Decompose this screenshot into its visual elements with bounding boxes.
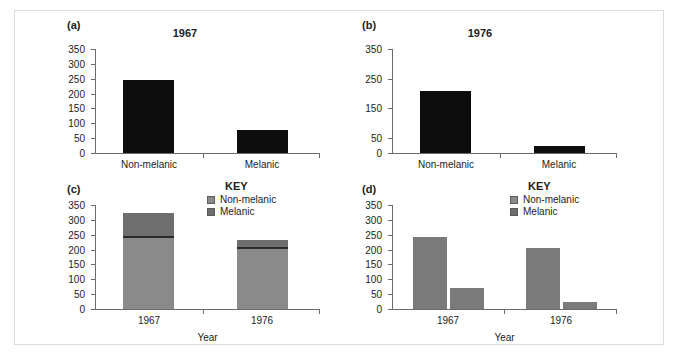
panel-c-ylabel: 250 [55,231,85,241]
panel-c-y-axis [95,205,96,309]
panel-b-ylabel: 0 [352,149,382,159]
panel-a-ylabel: 250 [55,75,85,85]
legend-label-non-melanic: Non-melanic [220,195,276,205]
panel-b-xlabel-non-melanic: Non-melanic [392,160,500,170]
panel-b-plot: 0 50 150 250 350 Non-melanic Melanic [392,49,617,153]
panel-c-ylabel: 300 [55,216,85,226]
panel-d-ylabel: 100 [352,275,382,285]
panel-b-bar-non-melanic [420,91,471,153]
panel-b-ytick [388,138,392,139]
legend-swatch-non-melanic-icon [510,196,518,204]
panel-c-letter: (c) [67,183,80,195]
panel-b-ylabel: 250 [352,75,382,85]
panel-d-xtick [504,309,505,314]
panel-c-ytick [91,279,95,280]
panel-c-ylabel: 50 [55,290,85,300]
panel-d-y-axis [392,205,393,309]
legend-swatch-non-melanic-icon [207,196,215,204]
panel-c-ytick [91,264,95,265]
panel-a-ytick [91,79,95,80]
panel-a-bar-non-melanic [123,80,174,153]
panel-a-ytick [91,49,95,50]
panel-b-ytick [388,108,392,109]
panel-c-bar-1976-non-melanic [237,247,288,309]
panel-b-ylabel: 150 [352,104,382,114]
panel-b: (b) 1976 0 50 150 250 350 Non-melanic Me… [340,11,665,176]
panel-c-ytick [91,250,95,251]
legend-label-non-melanic: Non-melanic [523,195,579,205]
panel-d-ylabel: 0 [352,305,382,315]
panel-a-ylabel: 100 [55,119,85,129]
panel-d-ytick [388,279,392,280]
panel-d-xtick [616,309,617,314]
panel-b-ytick [388,79,392,80]
panel-d-ylabel: 350 [352,201,382,211]
panel-c-ylabel: 100 [55,275,85,285]
panel-d-xlabel-1967: 1967 [398,316,498,326]
panel-d-ytick [388,309,392,310]
panel-c-ytick [91,235,95,236]
panel-a-letter: (a) [67,19,80,31]
panel-d-ylabel: 300 [352,216,382,226]
panel-c-bar-1967-non-melanic-front [123,236,174,309]
panel-d-plot: 0 50 100 150 200 250 300 350 1967 197 [392,205,617,309]
panel-b-title: 1976 [400,27,560,39]
panel-d-legend-title: KEY [528,181,579,192]
panel-d-xlabel-1976: 1976 [511,316,611,326]
panel-c-ylabel: 350 [55,201,85,211]
panel-c-ylabel: 200 [55,246,85,256]
panel-d-bar-1967-non-melanic [413,237,447,309]
panel-c-ylabel: 0 [55,305,85,315]
panel-b-bar-melanic [534,146,585,153]
panel-a-xlabel-melanic: Melanic [205,160,319,170]
panel-a-ylabel: 300 [55,60,85,70]
panel-a-xtick [203,153,204,158]
panel-a-ylabel: 200 [55,90,85,100]
panel-d-ytick [388,220,392,221]
panel-a-ytick [91,123,95,124]
panel-a-ytick [91,153,95,154]
panel-d-bar-1976-melanic [563,302,597,309]
panel-a-ytick [91,64,95,65]
panel-d-ytick [388,294,392,295]
panel-b-xtick [500,153,501,158]
panel-a-ylabel: 350 [55,45,85,55]
panel-c-xlabel-1967: 1967 [95,316,203,326]
panel-d-ytick [388,235,392,236]
panel-b-ylabel: 50 [352,134,382,144]
panel-a-ylabel: 150 [55,104,85,114]
panel-b-y-axis [392,49,393,153]
panel-a-ytick [91,108,95,109]
panel-d-ylabel: 150 [352,260,382,270]
panel-d-ylabel: 50 [352,290,382,300]
panel-c-x-axis [95,309,320,310]
panel-c-xtick [319,309,320,314]
panel-d-ylabel: 200 [352,246,382,256]
panel-a-bar-melanic [237,130,288,153]
panel-d-ylabel: 250 [352,231,382,241]
panel-b-xtick [616,153,617,158]
panel-d-legend-item-non-melanic: Non-melanic [510,195,579,205]
panel-a-title: 1967 [105,27,265,39]
panel-a-xtick [319,153,320,158]
panel-a-xlabel-non-melanic: Non-melanic [95,160,203,170]
panel-b-ytick [388,153,392,154]
panel-d-bar-1976-non-melanic [526,248,560,309]
panel-c-xlabel-1976: 1976 [205,316,319,326]
panel-b-ytick [388,49,392,50]
panel-c-legend-item-non-melanic: Non-melanic [207,195,276,205]
panel-a-x-axis [95,153,320,154]
panel-a: (a) 1967 0 50 100 150 200 250 300 350 [15,11,340,176]
panel-b-x-axis [392,153,617,154]
panel-a-ytick [91,138,95,139]
panel-c-ytick [91,309,95,310]
panel-b-letter: (b) [362,19,376,31]
panel-c-ytick [91,220,95,221]
panel-b-ylabel: 350 [352,45,382,55]
panel-a-ytick [91,94,95,95]
panel-d: (d) KEY Non-melanic Melanic 0 50 100 150 [340,176,665,346]
panel-d-bar-1967-melanic [450,288,484,309]
panel-a-plot: 0 50 100 150 200 250 300 350 Non-melanic… [95,49,320,153]
panel-c-plot: 0 50 100 150 200 250 300 350 1967 [95,205,320,309]
panel-c-x-axis-title: Year [95,332,320,343]
